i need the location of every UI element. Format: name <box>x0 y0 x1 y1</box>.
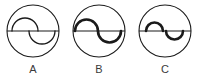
right-arc-down-icon <box>29 31 55 44</box>
figure-b: B <box>66 0 132 81</box>
figure-c-drawing <box>132 1 198 61</box>
right-arc-down-icon <box>166 31 183 40</box>
figure-a: A <box>0 0 66 81</box>
left-arc-up-icon <box>12 18 38 31</box>
left-arc-up-icon <box>146 23 163 31</box>
figure-label-b: B <box>66 62 132 76</box>
left-arc-up-icon <box>75 20 98 31</box>
figure-label-a: A <box>0 62 66 76</box>
diagram-canvas: A B C <box>0 0 198 81</box>
right-arc-down-icon <box>98 31 121 43</box>
figure-a-drawing <box>0 1 66 61</box>
figure-b-drawing <box>66 1 132 61</box>
figure-label-c: C <box>132 62 198 76</box>
figure-c: C <box>132 0 198 81</box>
